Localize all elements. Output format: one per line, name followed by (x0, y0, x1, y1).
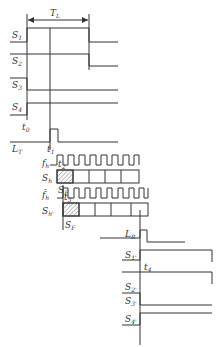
s1-label: S1 (12, 30, 22, 41)
sh-prime-label: Sh' (42, 206, 54, 217)
t4-label: t4 (144, 262, 152, 273)
s1-waveform (10, 28, 118, 42)
fh-bar-label: f̄h (41, 189, 49, 201)
t1-label: t1 (47, 144, 54, 155)
t2-label: t2 (58, 159, 66, 170)
sf2-label: SF (65, 220, 76, 231)
t0-label: t0 (22, 122, 30, 133)
s2p-label: S2' (125, 282, 137, 293)
sh-hatch (57, 170, 73, 183)
lt-label: LT (11, 144, 23, 155)
sh-prime-hatch (63, 203, 79, 216)
fh-label: fh (41, 158, 49, 169)
sh-label: Sh (42, 173, 52, 184)
s2p-waveform (122, 272, 212, 284)
s2-waveform (10, 54, 118, 66)
s3p-label: S3' (125, 296, 137, 307)
s2-label: S2 (12, 56, 22, 67)
lr-label: LR (124, 229, 136, 240)
s4p-label: S4' (125, 314, 137, 325)
s3-label: S3 (12, 80, 22, 91)
period-label: TL (50, 8, 60, 19)
timing-diagram: TL S1 S2 S3 S4 t0 LT t1 fh t2 Sh SF f̄h … (0, 0, 220, 347)
s3-waveform (10, 78, 118, 90)
s1p-label: S1' (125, 250, 137, 261)
s4-waveform (10, 103, 118, 115)
lr-waveform (100, 230, 185, 242)
s4-label: S4 (12, 102, 22, 113)
